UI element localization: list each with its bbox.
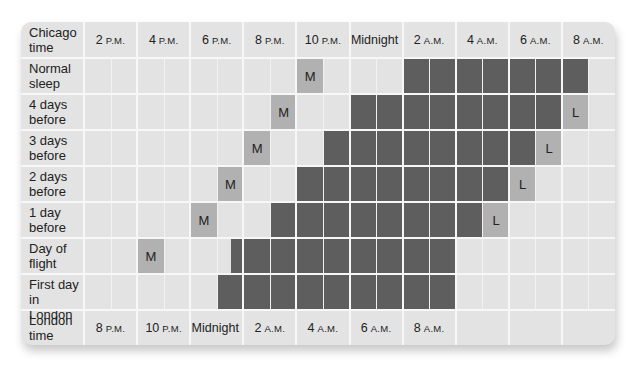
tick-number: 8 xyxy=(255,33,262,47)
tick-suffix: A.M. xyxy=(371,323,392,334)
melatonin-marker: M xyxy=(138,239,164,274)
row-label: Normal sleep xyxy=(21,58,84,94)
time-tick: 8A.M. xyxy=(403,310,456,345)
time-tick: 2A.M. xyxy=(243,310,296,345)
row-label: 1 day before xyxy=(21,202,84,238)
footer-row-london-time: London time8P.M.10P.M.Midnight2A.M.4A.M.… xyxy=(21,310,615,345)
row-label: Day of flight xyxy=(21,238,84,274)
grid-line xyxy=(561,22,563,345)
tick-number: Midnight xyxy=(192,321,239,335)
tick-number: 6 xyxy=(202,33,209,47)
grid-line xyxy=(455,22,457,345)
time-tick: 8A.M. xyxy=(562,22,615,58)
row-label: London time xyxy=(21,310,84,345)
time-tick: 10P.M. xyxy=(137,310,190,345)
grid-line xyxy=(21,165,615,167)
tick-suffix: A.M. xyxy=(530,35,551,46)
tick-suffix: A.M. xyxy=(264,323,285,334)
tick-number: 6 xyxy=(361,321,368,335)
tick-number: 8 xyxy=(96,321,103,335)
grid-line xyxy=(21,237,615,239)
grid-line xyxy=(21,201,615,203)
light-marker: L xyxy=(563,95,589,130)
tick-suffix: A.M. xyxy=(424,323,445,334)
grid-line xyxy=(349,22,351,345)
tick-suffix: A.M. xyxy=(424,35,445,46)
tick-suffix: A.M. xyxy=(477,35,498,46)
light-marker: L xyxy=(483,203,509,238)
time-tick: 8P.M. xyxy=(243,22,296,58)
grid-line xyxy=(189,22,191,345)
time-tick: Midnight xyxy=(190,310,243,345)
tick-suffix: P.M. xyxy=(162,323,182,334)
time-tick: Midnight xyxy=(350,22,403,58)
grid-line xyxy=(295,22,297,345)
sleep-shift-chart: Chicago time2P.M.4P.M.6P.M.8P.M.10P.M.Mi… xyxy=(21,22,615,345)
grid-line xyxy=(21,129,615,131)
tick-number: 2 xyxy=(255,321,262,335)
tick-number: 10 xyxy=(305,33,319,47)
time-tick: 4A.M. xyxy=(296,310,349,345)
tick-suffix: P.M. xyxy=(159,35,179,46)
row-label: 3 days before xyxy=(21,130,84,166)
tick-suffix: A.M. xyxy=(583,35,604,46)
grid-line xyxy=(402,22,404,345)
tick-suffix: P.M. xyxy=(212,35,232,46)
grid-line xyxy=(21,93,615,95)
tick-number: 8 xyxy=(414,321,421,335)
time-tick: 6A.M. xyxy=(509,22,562,58)
grid-line xyxy=(21,309,615,311)
tick-number: 2 xyxy=(96,33,103,47)
tick-number: 10 xyxy=(145,321,159,335)
row-label: 4 days before xyxy=(21,94,84,130)
time-tick: 4P.M. xyxy=(137,22,190,58)
time-tick: 2A.M. xyxy=(403,22,456,58)
grid-line xyxy=(136,22,138,345)
tick-number: Midnight xyxy=(351,33,398,47)
time-tick: 10P.M. xyxy=(296,22,349,58)
time-tick: 2P.M. xyxy=(84,22,137,58)
time-tick: 6A.M. xyxy=(350,310,403,345)
row-label: Chicago time xyxy=(21,22,84,58)
tick-number: 4 xyxy=(149,33,156,47)
melatonin-marker: M xyxy=(297,59,323,94)
melatonin-marker: M xyxy=(244,131,270,166)
grid-line xyxy=(242,22,244,345)
grid-line xyxy=(83,22,85,345)
grid-line xyxy=(21,273,615,275)
tick-number: 2 xyxy=(414,33,421,47)
time-tick xyxy=(509,310,562,345)
tick-suffix: P.M. xyxy=(265,35,285,46)
row-label: First day in London xyxy=(21,274,84,310)
tick-suffix: A.M. xyxy=(318,323,339,334)
row-label: 2 days before xyxy=(21,166,84,202)
grid-line xyxy=(508,22,510,345)
light-marker: L xyxy=(536,131,562,166)
tick-number: 8 xyxy=(573,33,580,47)
light-marker: L xyxy=(510,167,536,202)
tick-suffix: P.M. xyxy=(106,323,126,334)
sleep-block xyxy=(231,239,456,274)
time-tick: 6P.M. xyxy=(190,22,243,58)
melatonin-marker: M xyxy=(271,95,297,130)
time-tick xyxy=(456,310,509,345)
time-tick xyxy=(562,310,615,345)
header-row-chicago-time: Chicago time2P.M.4P.M.6P.M.8P.M.10P.M.Mi… xyxy=(21,22,615,58)
tick-suffix: P.M. xyxy=(106,35,126,46)
tick-number: 6 xyxy=(520,33,527,47)
tick-number: 4 xyxy=(467,33,474,47)
time-tick: 8P.M. xyxy=(84,310,137,345)
time-tick: 4A.M. xyxy=(456,22,509,58)
melatonin-marker: M xyxy=(218,167,244,202)
tick-number: 4 xyxy=(308,321,315,335)
melatonin-marker: M xyxy=(191,203,217,238)
grid-line xyxy=(21,57,615,59)
tick-suffix: P.M. xyxy=(322,35,342,46)
sleep-block xyxy=(218,275,456,310)
